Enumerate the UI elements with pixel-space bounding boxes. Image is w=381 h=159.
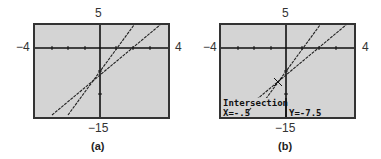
panel-a: 5 −4 4 −15 (a) [0, 0, 190, 159]
panel-b: 5 −4 4 Intersection X=-.5 Y=-7.5 −15 (b) [190, 0, 380, 159]
graph-plot [0, 0, 190, 159]
line-2 [52, 25, 160, 115]
intersection-x: X=-.5 [223, 108, 250, 118]
intersection-title: Intersection [223, 98, 288, 108]
ymin-label: −15 [88, 121, 108, 135]
caption-a: (a) [91, 140, 104, 152]
graph-plot [190, 0, 380, 159]
caption-b: (b) [278, 140, 292, 152]
line-1 [68, 25, 134, 115]
intersection-y: Y=-7.5 [289, 108, 322, 118]
intersection-cursor [274, 78, 282, 86]
ymin-label: −15 [275, 121, 295, 135]
